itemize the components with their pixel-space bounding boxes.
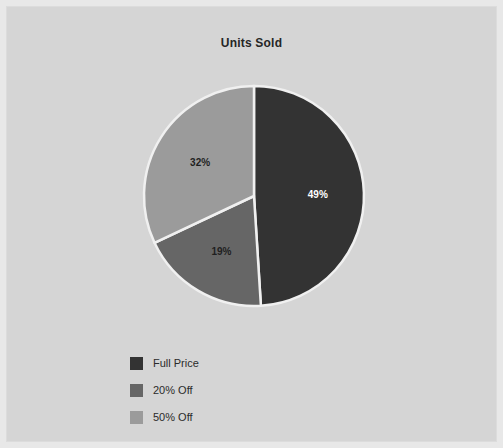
legend-item-20-off[interactable]: 20% Off (130, 377, 390, 404)
legend-swatch-full-price (130, 357, 143, 370)
pie-svg: 49%19%32% (31, 34, 481, 334)
pie-slice-value-label: 19% (211, 246, 231, 257)
legend-swatch-50-off (130, 411, 143, 424)
pie-slices (144, 86, 364, 306)
legend-label-full-price: Full Price (153, 357, 199, 370)
legend-label-50-off: 50% Off (153, 411, 193, 424)
legend-item-50-off[interactable]: 50% Off (130, 404, 390, 431)
chart-panel: Units Sold 49%19%32% Full Price 20% Off … (6, 6, 497, 442)
legend-item-full-price[interactable]: Full Price (130, 350, 390, 377)
legend-label-20-off: 20% Off (153, 384, 193, 397)
pie-chart: 49%19%32% (31, 34, 257, 260)
pie-slice-value-label: 32% (190, 157, 210, 168)
chart-legend: Full Price 20% Off 50% Off (130, 350, 390, 431)
pie-slice-value-label: 49% (308, 189, 328, 200)
legend-swatch-20-off (130, 384, 143, 397)
